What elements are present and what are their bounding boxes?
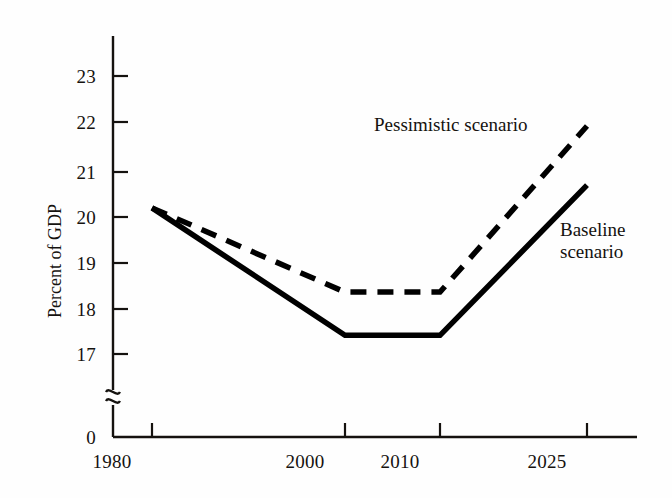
y-tick-marks xyxy=(113,76,128,354)
y-tick-label-18: 18 xyxy=(48,300,96,319)
series-line-baseline xyxy=(152,185,587,335)
x-tick-label-2000: 2000 xyxy=(265,452,345,471)
x-tick-label-2010: 2010 xyxy=(360,452,440,471)
y-tick-label-20: 20 xyxy=(48,208,96,227)
y-tick-label-17: 17 xyxy=(48,345,96,364)
y-tick-label-21: 21 xyxy=(48,163,96,182)
series-line-pessimistic xyxy=(152,126,587,292)
series-label-baseline-line1: Baseline xyxy=(560,219,625,241)
y-tick-label-23: 23 xyxy=(48,67,96,86)
y-tick-label-0: 0 xyxy=(48,428,96,447)
x-tick-label-1980: 1980 xyxy=(72,452,152,471)
series-label-pessimistic: Pessimistic scenario xyxy=(374,114,528,136)
y-tick-label-19: 19 xyxy=(48,254,96,273)
y-axis-break-symbol-lower xyxy=(106,399,120,402)
y-tick-label-22: 22 xyxy=(48,113,96,132)
y-axis-break-symbol xyxy=(106,390,120,393)
x-tick-marks xyxy=(152,423,587,437)
line-chart-figure: Percent of GDP 23 22 21 20 19 18 17 0 19… xyxy=(0,0,672,498)
x-tick-label-2025: 2025 xyxy=(507,452,587,471)
series-label-baseline-line2: scenario xyxy=(560,241,623,263)
